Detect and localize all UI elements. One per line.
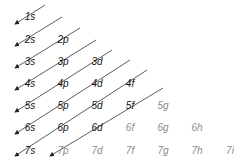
orbital-label-7g: 7g bbox=[157, 146, 168, 156]
orbital-label-6h: 6h bbox=[191, 123, 202, 133]
orbital-label-7d: 7d bbox=[91, 146, 102, 156]
orbital-label-7f: 7f bbox=[126, 146, 134, 156]
orbital-label-3s: 3s bbox=[25, 57, 36, 67]
orbital-label-7s: 7s bbox=[25, 146, 36, 156]
orbital-filling-diagram: 1s2s2p3s3p3d4s4p4d4f5s5p5d5f5g6s6p6d6f6g… bbox=[0, 0, 251, 167]
orbital-label-5d: 5d bbox=[91, 101, 102, 111]
orbital-label-6s: 6s bbox=[25, 123, 36, 133]
orbital-label-7i: 7i bbox=[226, 146, 234, 156]
orbital-label-2s: 2s bbox=[25, 35, 36, 45]
filling-arrow bbox=[15, 17, 62, 46]
orbital-label-1s: 1s bbox=[25, 12, 36, 22]
orbital-label-4d: 4d bbox=[91, 79, 102, 89]
orbital-label-4p: 4p bbox=[57, 79, 68, 89]
orbital-label-6g: 6g bbox=[157, 123, 168, 133]
orbital-label-5s: 5s bbox=[25, 101, 36, 111]
orbital-label-6p: 6p bbox=[57, 123, 68, 133]
orbital-label-5p: 5p bbox=[57, 101, 68, 111]
orbital-label-7p: 7p bbox=[57, 146, 68, 156]
orbital-label-3d: 3d bbox=[91, 57, 102, 67]
orbital-label-5f: 5f bbox=[126, 101, 134, 111]
orbital-label-4f: 4f bbox=[126, 79, 134, 89]
orbital-label-5g: 5g bbox=[157, 101, 168, 111]
orbital-label-7h: 7h bbox=[191, 146, 202, 156]
orbital-label-4s: 4s bbox=[25, 79, 36, 89]
orbital-label-6d: 6d bbox=[91, 123, 102, 133]
orbital-label-2p: 2p bbox=[57, 35, 68, 45]
orbital-label-3p: 3p bbox=[57, 57, 68, 67]
orbital-label-6f: 6f bbox=[126, 123, 134, 133]
